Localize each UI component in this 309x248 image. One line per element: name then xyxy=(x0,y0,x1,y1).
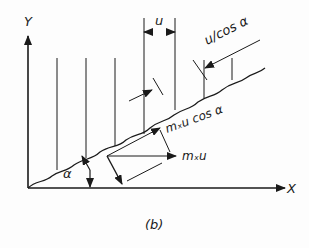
slant-spacing-dimension xyxy=(129,40,260,101)
figure-caption: (b) xyxy=(145,217,163,232)
horizontal-component-label: mₓu xyxy=(182,149,207,163)
vector-triangle xyxy=(107,128,176,184)
diagram-figure: Y X u u/cos α mₓu cos α mₓu α xyxy=(0,0,309,248)
x-axis-label: X xyxy=(286,181,297,196)
spacing-label: u xyxy=(155,13,163,28)
slant-spacing-label: u/cos α xyxy=(202,13,251,48)
surface-component-label: mₓu cos α xyxy=(163,102,225,136)
y-axis-label: Y xyxy=(24,14,33,29)
angle-label: α xyxy=(63,166,72,181)
diagram-canvas: Y X u u/cos α mₓu cos α mₓu α xyxy=(0,0,309,248)
